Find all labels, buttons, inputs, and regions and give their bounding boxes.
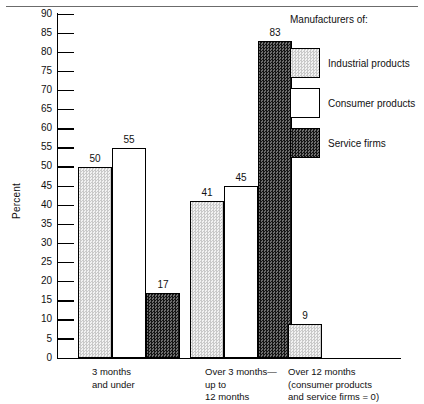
y-tick-5 [58,338,74,339]
y-tick-80 [58,52,74,53]
y-axis-title: Percent [12,171,22,231]
y-tick-label-85: 85 [22,28,52,38]
y-tick-label-75: 75 [22,66,52,76]
y-tick-label-40: 40 [22,200,52,210]
bar-group2-consumer [224,186,258,358]
bar-value-group2-consumer: 45 [224,173,258,183]
legend-label-industrial-products: Industrial products [328,58,410,69]
bar-group1-service [146,293,180,358]
legend-swatch-service-icon [290,128,320,158]
legend-swatch-consumer-icon [290,88,320,118]
y-tick-label-65: 65 [22,104,52,114]
y-tick-40 [58,205,74,206]
y-tick-label-45: 45 [22,181,52,191]
y-tick-15 [58,300,74,301]
y-tick-35 [58,224,74,225]
y-tick-label-15: 15 [22,295,52,305]
bar-chart-figure: 90 85 80 75 70 65 60 55 50 45 40 35 30 2… [0,0,424,404]
bar-value-group1-consumer: 55 [112,135,146,145]
bar-value-group1-service: 17 [146,280,180,290]
y-tick-label-60: 60 [22,123,52,133]
y-tick-label-30: 30 [22,238,52,248]
y-tick-90 [58,14,74,15]
y-tick-55 [58,147,74,148]
y-tick-label-70: 70 [22,85,52,95]
legend-title: Manufacturers of: [290,14,368,25]
bar-group2-service [258,41,292,359]
y-tick-75 [58,71,74,72]
bar-value-group2-industrial: 41 [190,188,224,198]
bar-group1-industrial [78,167,112,359]
y-tick-20 [58,281,74,282]
legend-swatch-industrial-icon [290,48,320,78]
y-tick-65 [58,109,74,110]
y-tick-label-0: 0 [22,353,52,363]
y-tick-60 [58,128,74,129]
y-tick-label-35: 35 [22,219,52,229]
y-tick-label-55: 55 [22,142,52,152]
bar-group2-industrial [190,201,224,358]
y-tick-label-10: 10 [22,314,52,324]
bar-value-group3-industrial: 9 [288,311,322,321]
y-tick-70 [58,90,74,91]
y-tick-label-90: 90 [22,9,52,19]
y-tick-label-80: 80 [22,47,52,57]
bar-value-group2-service: 83 [258,28,292,38]
y-tick-85 [58,33,74,34]
bar-group3-industrial [288,324,322,359]
y-tick-label-50: 50 [22,161,52,171]
y-tick-45 [58,186,74,187]
y-tick-label-20: 20 [22,276,52,286]
y-tick-label-5: 5 [22,334,52,344]
y-tick-label-25: 25 [22,257,52,267]
group-caption-3: Over 12 months (consumer products and se… [288,366,424,404]
bar-group1-consumer [112,148,146,359]
group-caption-1: 3 months and under [92,366,202,391]
y-tick-25 [58,262,74,263]
legend-label-service-firms: Service firms [328,138,386,149]
legend-label-consumer-products: Consumer products [328,98,415,109]
y-tick-50 [58,166,74,167]
y-tick-30 [58,243,74,244]
bar-value-group1-industrial: 50 [78,154,112,164]
y-tick-10 [58,319,74,320]
